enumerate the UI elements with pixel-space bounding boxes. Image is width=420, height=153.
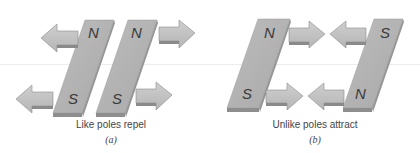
panel-a: N S N S (16, 20, 195, 117)
sublabel-b: (b) (295, 134, 335, 145)
magnet-bottom-pole: S (68, 90, 78, 107)
magnetic-poles-figure: N S N S (0, 0, 420, 153)
arrow-right-icon (136, 82, 172, 110)
caption-unlike-poles: Unlike poles attract (245, 119, 385, 130)
magnet-bottom-pole: S (112, 90, 122, 107)
sublabel-a: (a) (91, 134, 131, 145)
magnet-top-pole: N (88, 24, 99, 41)
arrow-right-icon (289, 21, 325, 48)
magnet-top-pole: S (380, 24, 390, 41)
caption-like-poles: Like poles repel (41, 119, 181, 130)
magnet-bottom-pole: N (355, 85, 366, 102)
magnet-bottom-pole: S (242, 85, 252, 102)
panel-b: N S S N (227, 19, 404, 112)
arrow-right-icon (266, 83, 303, 110)
arrow-left-icon (16, 85, 53, 113)
arrow-left-icon (308, 83, 344, 110)
diagram-canvas: N S N S (0, 0, 420, 153)
arrow-right-icon (159, 20, 195, 48)
arrow-left-icon (41, 24, 78, 52)
magnet-top-pole: N (264, 24, 275, 41)
arrow-left-icon (330, 21, 366, 48)
magnet-top-pole: N (131, 24, 142, 41)
